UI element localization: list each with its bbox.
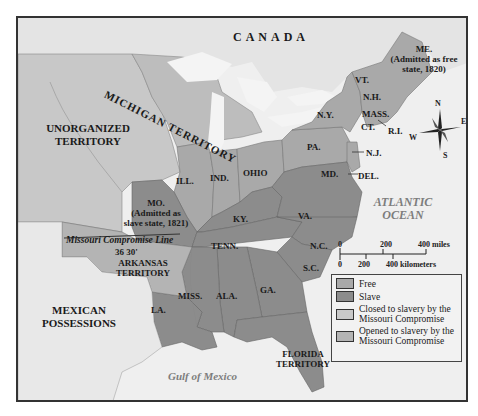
label-ct: CT. bbox=[361, 122, 375, 132]
label-mo: MO. bbox=[147, 198, 165, 208]
label-ky: KY. bbox=[233, 214, 248, 224]
label-ala: ALA. bbox=[216, 291, 237, 301]
label-va: VA. bbox=[298, 211, 312, 221]
legend-swatch-closed bbox=[336, 309, 354, 320]
label-ri: R.I. bbox=[388, 126, 403, 136]
label-ny: N.Y. bbox=[317, 110, 334, 120]
missouri-compromise-line-label: Missouri Compromise Line bbox=[66, 235, 173, 245]
legend-swatch-free bbox=[336, 278, 354, 289]
label-atlantic-ocean: ATLANTIC OCEAN bbox=[373, 196, 433, 222]
legend-label-slave: Slave bbox=[359, 292, 380, 302]
scale-bar: 0 200 400 miles 0 200 400 kilometers bbox=[338, 240, 448, 272]
compass-icon bbox=[415, 105, 465, 155]
label-ohio: OHIO bbox=[243, 168, 268, 178]
label-me: ME. bbox=[416, 44, 433, 54]
label-pa: PA. bbox=[307, 142, 321, 152]
legend-item-closed: Closed to slavery by the Missouri Compro… bbox=[336, 304, 457, 324]
compass-s: S bbox=[443, 151, 447, 160]
legend-label-closed: Closed to slavery by the Missouri Compro… bbox=[359, 304, 457, 324]
label-missouri: MO. (Admitted as slave state, 1821) bbox=[121, 198, 191, 228]
latitude-label: 36 30' bbox=[115, 247, 138, 257]
label-gulf-of-mexico: Gulf of Mexico bbox=[168, 370, 237, 382]
label-ill: ILL. bbox=[176, 176, 194, 186]
legend-swatch-opened bbox=[336, 331, 354, 342]
label-nh: N.H. bbox=[363, 92, 381, 102]
label-arkansas-territory: ARKANSAS TERRITORY bbox=[108, 258, 178, 278]
legend-label-opened: Opened to slavery by the Missouri Compro… bbox=[359, 326, 457, 346]
scale-km-0: 0 bbox=[338, 260, 342, 269]
label-nc: N.C. bbox=[310, 241, 328, 251]
label-nj: N.J. bbox=[366, 148, 382, 158]
label-mo-note: (Admitted as slave state, 1821) bbox=[124, 208, 189, 228]
label-la: LA. bbox=[151, 305, 166, 315]
compass-rose: N E S W bbox=[415, 105, 465, 155]
label-mass: MASS. bbox=[362, 109, 389, 119]
label-md: MD. bbox=[321, 169, 338, 179]
label-sc: S.C. bbox=[303, 263, 319, 273]
label-tenn: TENN. bbox=[211, 241, 238, 251]
scale-km-200: 200 bbox=[358, 260, 370, 269]
label-miss: MISS. bbox=[178, 291, 202, 301]
label-del: DEL. bbox=[358, 171, 379, 181]
label-florida-territory: FLORIDA TERRITORY bbox=[268, 349, 338, 369]
legend-swatch-slave bbox=[336, 291, 354, 302]
compass-e: E bbox=[461, 117, 466, 126]
label-ga: GA. bbox=[260, 285, 276, 295]
label-mexican-possessions: MEXICAN POSSESSIONS bbox=[34, 304, 124, 330]
compass-w: W bbox=[409, 133, 417, 142]
label-me-note: (Admitted as free state, 1820) bbox=[391, 54, 458, 74]
label-unorganized-territory: UNORGANIZED TERRITORY bbox=[38, 122, 138, 148]
scale-km-400: 400 kilometers bbox=[386, 260, 436, 269]
map-legend: Free Slave Closed to slavery by the Miss… bbox=[331, 274, 462, 362]
legend-item-free: Free bbox=[336, 278, 457, 289]
compass-n: N bbox=[435, 99, 441, 108]
label-maine: ME. (Admitted as free state, 1820) bbox=[388, 44, 460, 74]
legend-label-free: Free bbox=[359, 279, 376, 289]
label-vt: VT. bbox=[355, 75, 369, 85]
legend-item-opened: Opened to slavery by the Missouri Compro… bbox=[336, 326, 457, 346]
legend-item-slave: Slave bbox=[336, 291, 457, 302]
label-canada: CANADA bbox=[233, 32, 309, 42]
label-ind: IND. bbox=[210, 173, 229, 183]
